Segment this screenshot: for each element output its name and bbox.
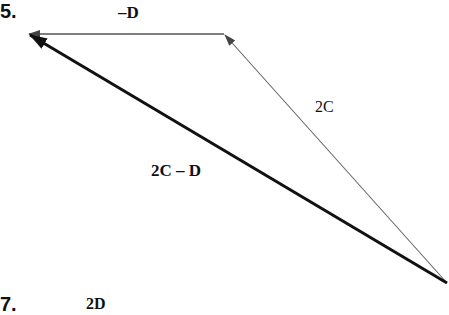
vector-2c: [225, 35, 447, 283]
vector-2c-minus-d: [30, 35, 447, 283]
